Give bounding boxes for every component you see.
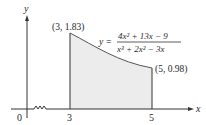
x-axis-label: x <box>195 103 201 114</box>
axis-break-icon <box>34 106 48 109</box>
point-label-left: (3, 1.83) <box>52 22 84 33</box>
tick-label-5: 5 <box>149 112 154 123</box>
y-axis-label: y <box>23 3 29 14</box>
point-label-right: (5, 0.98) <box>155 64 187 75</box>
equation-numerator: 4x² + 13x − 9 <box>118 31 168 41</box>
area-chart: y x 0 3 5 (3, 1.83) (5, 0.98) y = 4x² + … <box>0 0 206 125</box>
equation-lhs: y = <box>98 37 112 47</box>
x-axis-arrow-icon <box>188 107 194 111</box>
origin-label: 0 <box>17 112 22 123</box>
tick-label-3: 3 <box>67 112 72 123</box>
y-axis-arrow-icon <box>25 15 29 21</box>
equation-denominator: x³ + 2x² − 3x <box>116 44 165 54</box>
